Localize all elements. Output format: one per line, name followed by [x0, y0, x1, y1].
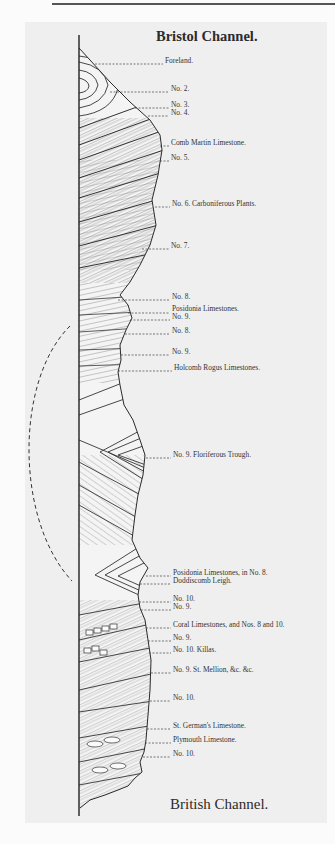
stratum-label: No. 2.: [171, 85, 189, 93]
stratum-label: No. 9.: [172, 348, 190, 356]
stratum-label: No. 6. Carboniferous Plants.: [172, 200, 256, 208]
stratum-label: Plymouth Limestone.: [173, 736, 237, 744]
stratum-label: No. 9. Floriferous Trough.: [173, 451, 251, 459]
stratum-label: No. 4.: [171, 109, 189, 117]
stratum-label: No. 10.: [173, 750, 195, 758]
stratum-label: No. 10. Killas.: [173, 646, 216, 654]
stratum-label: Coral Limestones, and Nos. 8 and 10.: [173, 621, 284, 629]
stratum-label: No. 10.: [173, 694, 195, 702]
stratum-label: No. 5.: [171, 154, 189, 162]
stratum-label: Comb Martin Limestone.: [171, 139, 246, 147]
title-british-channel: British Channel.: [170, 796, 268, 813]
stratum-label: Doddiscomb Leigh.: [173, 577, 232, 585]
stratum-label: Holcomb Rogus Limestones.: [174, 364, 260, 372]
stratum-label: No. 9.: [173, 603, 191, 611]
stratum-label: No. 8.: [172, 293, 190, 301]
title-bristol-channel: Bristol Channel.: [156, 28, 258, 45]
stratum-label: No. 8.: [172, 327, 190, 335]
stratum-label: No. 7.: [171, 242, 189, 250]
stratum-label: No. 9. St. Mellion, &c. &c.: [173, 666, 254, 674]
stratum-label: No. 9.: [173, 634, 191, 642]
stratum-label: Foreland.: [165, 57, 193, 65]
dashed-arc: [29, 326, 72, 581]
stratum-label: No. 9.: [172, 313, 190, 321]
stratum-label: St. German's Limestone.: [173, 722, 246, 730]
strata-layers: [79, 40, 179, 820]
geological-section-drawing: [0, 0, 335, 844]
